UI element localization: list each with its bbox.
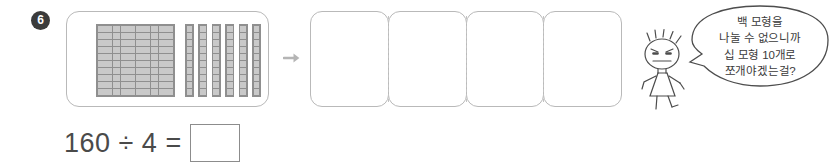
unit-square (213, 68, 219, 74)
unit-square (240, 82, 246, 88)
unit-square (143, 61, 150, 67)
unit-square (254, 47, 260, 53)
unit-square (200, 33, 206, 39)
unit-square (105, 68, 112, 74)
unit-square (227, 26, 233, 32)
unit-square (143, 89, 150, 95)
group-box[interactable] (310, 11, 389, 107)
unit-square (105, 61, 112, 67)
unit-square (151, 33, 158, 39)
unit-square (143, 33, 150, 39)
unit-square (136, 47, 143, 53)
unit-square (98, 61, 105, 67)
unit-square (159, 33, 166, 39)
unit-square (213, 54, 219, 60)
unit-square (227, 89, 233, 95)
unit-square (113, 26, 120, 32)
unit-square (166, 33, 173, 39)
unit-square (187, 89, 193, 95)
equation-row: 160 ÷ 4 = (64, 124, 240, 162)
unit-square (136, 61, 143, 67)
unit-square (121, 82, 128, 88)
unit-square (187, 61, 193, 67)
bubble-line-4: 쪼개야겠는걸? (725, 64, 796, 79)
unit-square (128, 33, 135, 39)
unit-square (166, 54, 173, 60)
unit-square (151, 89, 158, 95)
problem-number-badge: 6 (31, 11, 50, 30)
ten-rods-group (185, 24, 261, 97)
unit-square (143, 47, 150, 53)
unit-square (121, 40, 128, 46)
group-divider (543, 16, 544, 102)
unit-square (227, 61, 233, 67)
unit-square (128, 89, 135, 95)
unit-square (151, 82, 158, 88)
group-box[interactable] (388, 11, 467, 107)
speech-bubble-text: 백 모형을 나눌 수 없으니까 십 모형 10개로 쪼개야겠는걸? (688, 4, 832, 90)
unit-square (200, 61, 206, 67)
unit-square (136, 54, 143, 60)
group-box[interactable] (466, 11, 545, 107)
unit-square (159, 26, 166, 32)
hundred-flat-block (96, 24, 175, 97)
unit-square (240, 33, 246, 39)
equal-groups-container (310, 11, 622, 107)
unit-square (105, 33, 112, 39)
unit-square (98, 47, 105, 53)
unit-square (105, 82, 112, 88)
unit-square (159, 82, 166, 88)
unit-square (121, 68, 128, 74)
unit-square (159, 40, 166, 46)
unit-square (151, 40, 158, 46)
unit-square (105, 75, 112, 81)
unit-square (254, 26, 260, 32)
unit-square (200, 26, 206, 32)
unit-square (187, 26, 193, 32)
unit-square (227, 47, 233, 53)
unit-square (105, 47, 112, 53)
unit-square (187, 54, 193, 60)
unit-square (113, 68, 120, 74)
unit-square (187, 75, 193, 81)
unit-square (151, 68, 158, 74)
unit-square (121, 75, 128, 81)
unit-square (98, 40, 105, 46)
answer-input-box[interactable] (190, 124, 240, 162)
unit-square (143, 54, 150, 60)
unit-square (213, 47, 219, 53)
unit-square (136, 33, 143, 39)
unit-square (240, 68, 246, 74)
unit-square (213, 33, 219, 39)
unit-square (187, 47, 193, 53)
unit-square (143, 75, 150, 81)
unit-square (254, 89, 260, 95)
unit-square (240, 40, 246, 46)
unit-square (98, 33, 105, 39)
unit-square (113, 47, 120, 53)
unit-square (159, 47, 166, 53)
unit-square (213, 26, 219, 32)
unit-square (113, 75, 120, 81)
unit-square (213, 89, 219, 95)
worksheet-page: 6 (0, 0, 836, 165)
group-box[interactable] (543, 11, 622, 107)
unit-square (151, 54, 158, 60)
unit-square (121, 61, 128, 67)
unit-square (121, 54, 128, 60)
unit-square (159, 75, 166, 81)
unit-square (105, 54, 112, 60)
unit-square (227, 75, 233, 81)
unit-square (166, 26, 173, 32)
unit-square (240, 54, 246, 60)
unit-square (254, 61, 260, 67)
unit-square (166, 68, 173, 74)
bubble-line-1: 백 모형을 (737, 15, 783, 30)
unit-square (113, 40, 120, 46)
unit-square (166, 40, 173, 46)
arrow-right-icon (283, 51, 301, 65)
unit-square (136, 75, 143, 81)
student-character (632, 28, 694, 110)
unit-square (121, 89, 128, 95)
equation-expression: 160 ÷ 4 = (64, 128, 182, 159)
